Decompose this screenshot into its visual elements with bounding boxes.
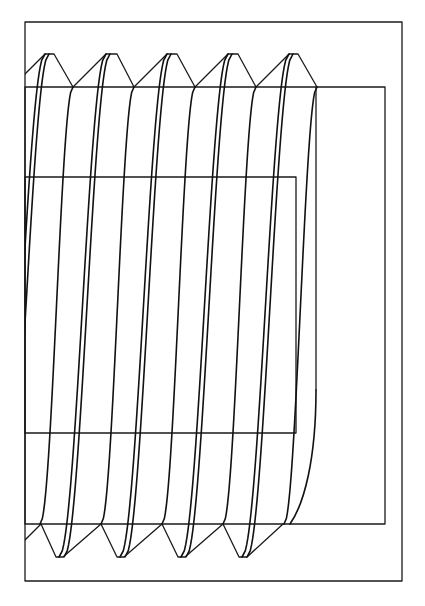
crest-right-helix [3,54,49,557]
root-helix [40,87,73,524]
bottom-thread-partial-flank [21,524,41,544]
thread-profile [12,54,317,557]
root-helix [101,87,134,524]
helix-curves [0,54,317,557]
root-helix [223,87,256,524]
root-helix [162,87,195,524]
thread-end-cap [290,87,316,524]
end-cap-curve [290,390,316,524]
crest-left-helix [0,54,45,557]
outer-frame-rect [25,22,402,581]
root-helix-leading [0,87,12,524]
thread-diagram-svg [0,0,425,606]
screw-thread-drawing: threaded screw side view (helical thread… [0,0,425,606]
minor-core-rect [25,177,296,433]
frame-rectangles [25,22,402,581]
